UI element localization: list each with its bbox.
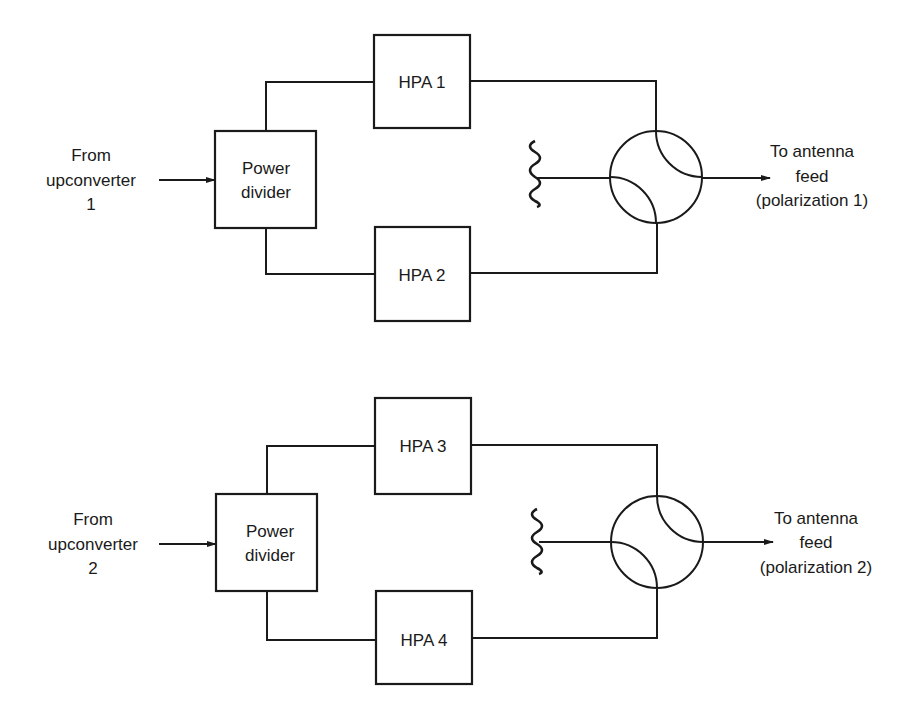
- power-divider-1: Power divider: [215, 131, 316, 228]
- input-label-line-3: 1: [86, 195, 95, 214]
- diagram-canvas: From upconverter 1 Power divider HPA 1: [0, 0, 913, 711]
- hpa-1: HPA 1: [374, 35, 470, 128]
- output-label-line-2: feed: [799, 533, 832, 552]
- output-label-line-3: (polarization 1): [756, 191, 868, 210]
- power-divider-label-line-2: divider: [241, 183, 291, 202]
- power-divider-label-line-2: divider: [245, 546, 295, 565]
- input-label-upconverter-1: From upconverter 1: [46, 146, 136, 214]
- output-label-antenna-feed-2: To antenna feed (polarization 2): [760, 509, 872, 577]
- hpa-2: HPA 2: [375, 227, 470, 321]
- output-label-line-3: (polarization 2): [760, 558, 872, 577]
- termination-load-2-icon: [532, 509, 611, 574]
- hpa-4-label: HPA 4: [401, 631, 448, 650]
- input-label-line-3: 2: [88, 559, 97, 578]
- wire-hpa-4-to-circulator: [472, 588, 657, 638]
- wire-divider-to-hpa-1: [266, 82, 374, 131]
- input-label-line-2: upconverter: [48, 535, 138, 554]
- output-label-antenna-feed-1: To antenna feed (polarization 1): [756, 142, 868, 210]
- input-label-upconverter-2: From upconverter 2: [48, 510, 138, 578]
- hpa-3-label: HPA 3: [400, 437, 447, 456]
- hpa-2-label: HPA 2: [399, 266, 446, 285]
- termination-load-1-icon: [530, 141, 610, 207]
- hybrid-combiner-1-icon: [610, 131, 702, 223]
- power-divider-label-line-1: Power: [246, 522, 295, 541]
- wire-hpa-1-to-circulator: [470, 81, 656, 131]
- amplifier-chain-2: From upconverter 2 Power divider HPA 3: [48, 398, 872, 684]
- wire-hpa-2-to-circulator: [470, 223, 657, 273]
- output-label-line-2: feed: [795, 167, 828, 186]
- input-label-line-2: upconverter: [46, 171, 136, 190]
- input-label-line-1: From: [73, 510, 113, 529]
- output-label-line-1: To antenna: [770, 142, 855, 161]
- wire-divider-to-hpa-2: [266, 228, 375, 274]
- hybrid-combiner-2-icon: [611, 496, 703, 588]
- power-divider-box: [215, 131, 316, 228]
- power-divider-box: [216, 494, 317, 591]
- input-label-line-1: From: [71, 146, 111, 165]
- output-label-line-1: To antenna: [774, 509, 859, 528]
- wire-hpa-3-to-circulator: [471, 445, 657, 496]
- wire-divider-to-hpa-3: [267, 446, 375, 494]
- wire-divider-to-hpa-4: [267, 591, 376, 640]
- amplifier-chain-1: From upconverter 1 Power divider HPA 1: [46, 35, 868, 321]
- hpa-4: HPA 4: [376, 591, 472, 684]
- power-divider-2: Power divider: [216, 494, 317, 591]
- hpa-1-label: HPA 1: [399, 73, 446, 92]
- power-divider-label-line-1: Power: [242, 159, 291, 178]
- hpa-3: HPA 3: [375, 398, 471, 494]
